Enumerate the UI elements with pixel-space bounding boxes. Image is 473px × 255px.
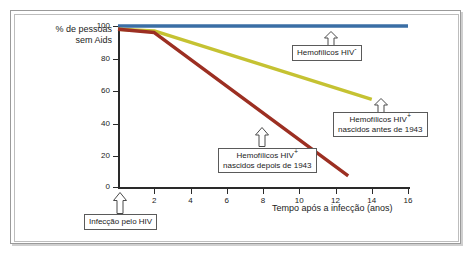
x-tick-6 [227,189,228,194]
y-axis-title-line2: sem Aids [28,35,112,46]
origin-callout-arrow-icon [112,192,128,214]
x-tick-10 [299,189,300,194]
x-tick-16 [408,189,409,194]
y-tick-label-40: 40 [101,120,110,128]
x-tick-8 [263,189,264,194]
y-tick-label-80: 80 [101,55,110,63]
x-tick-12 [336,189,337,194]
x-tick-label-4: 4 [188,197,192,205]
blue-callout-line1: Hemofílicos HIV [297,48,354,57]
y-tick-label-20: 20 [101,152,110,160]
yellow-callout-line2: nascidos antes de 1943 [338,125,423,135]
blue-callout: Hemofílicos HIV- [292,45,362,61]
blue-callout-sup: - [354,45,356,52]
red-callout-sup: + [294,148,298,155]
red-callout: Hemofílicos HIV+ nascidos depois de 1943 [218,148,317,173]
y-tick-label-0: 0 [106,183,110,191]
y-tick-label-60: 60 [101,87,110,95]
x-tick-2 [154,189,155,194]
origin-callout: Infecção pelo HIV [84,214,157,230]
x-tick-label-6: 6 [225,197,229,205]
origin-callout-line1: Infecção pelo HIV [89,217,152,226]
red-callout-line2: nascidos depois de 1943 [223,161,312,171]
yellow-callout-line1-wrap: Hemofílicos HIV+ [338,115,423,125]
chart-page: % de pessoas sem Aids 100 80 60 40 20 0 … [0,0,473,255]
yellow-callout: Hemofílicos HIV+ nascidos antes de 1943 [333,112,428,137]
x-tick-4 [191,189,192,194]
red-callout-line1: Hemofílicos HIV [237,151,294,160]
x-axis-title: Tempo após a infecção (anos) [272,203,393,214]
x-tick-label-16: 16 [404,197,413,205]
x-tick-label-8: 8 [261,197,265,205]
x-tick-label-2: 2 [152,197,156,205]
yellow-callout-sup: + [407,112,411,119]
y-tick-label-100: 100 [97,22,110,30]
red-callout-arrow-icon [254,127,270,147]
yellow-callout-line1: Hemofílicos HIV [350,115,407,124]
red-callout-line1-wrap: Hemofílicos HIV+ [223,151,312,161]
x-tick-14 [372,189,373,194]
